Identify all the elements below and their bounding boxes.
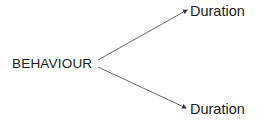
branch-node-lower-duration: Duration <box>190 102 245 117</box>
tree-diagram: BEHAVIOUR Duration Duration <box>0 0 269 123</box>
arrow-to-upper-duration <box>98 10 187 60</box>
arrow-to-lower-duration <box>98 67 186 108</box>
root-node-behaviour: BEHAVIOUR <box>12 57 92 71</box>
branch-node-upper-duration: Duration <box>190 4 245 19</box>
